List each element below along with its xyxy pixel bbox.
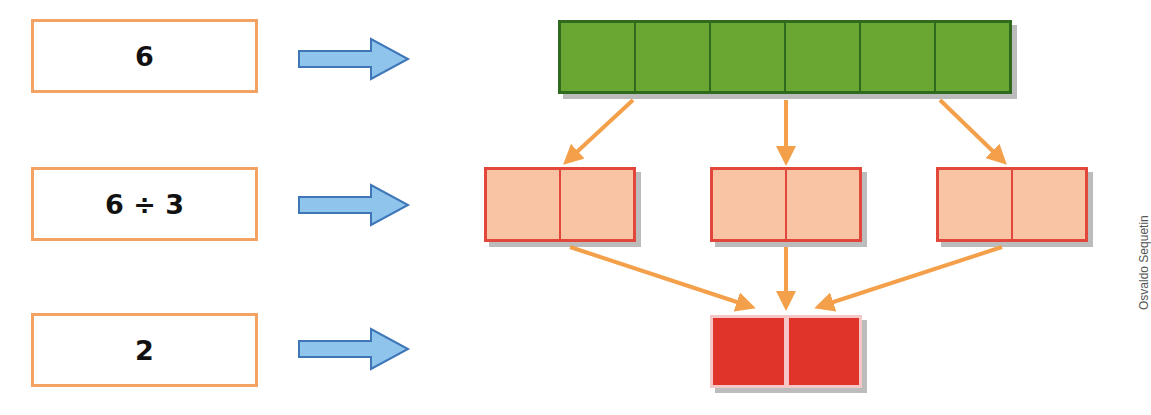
image-credit: Osvaldo Sequetin <box>1137 215 1151 310</box>
pink-unit <box>560 169 634 240</box>
green-unit <box>935 22 1010 92</box>
pink-group-3 <box>936 167 1088 242</box>
label-text: 2 <box>135 335 154 366</box>
pink-unit <box>1012 169 1086 240</box>
right-arrow-icon <box>297 37 411 81</box>
red-unit <box>712 317 785 386</box>
red-unit <box>788 317 861 386</box>
green-units-row <box>558 20 1012 94</box>
right-arrow-icon <box>297 183 411 227</box>
pink-group-1 <box>484 167 636 242</box>
pink-unit <box>938 169 1012 240</box>
green-unit <box>860 22 935 92</box>
right-arrow-icon <box>297 327 411 371</box>
green-unit <box>710 22 785 92</box>
green-unit <box>785 22 860 92</box>
pink-unit <box>786 169 860 240</box>
down-arrow-icon <box>566 100 633 162</box>
down-arrow-icon <box>818 247 1002 307</box>
down-arrow-icon <box>940 100 1004 162</box>
label-text: 6 <box>135 41 154 72</box>
label-text: 6 ÷ 3 <box>105 189 184 220</box>
pink-unit <box>486 169 560 240</box>
down-arrow-icon <box>570 247 752 307</box>
label-box-division: 6 ÷ 3 <box>31 167 258 241</box>
green-unit <box>635 22 710 92</box>
red-result-group <box>710 315 862 388</box>
label-box-six: 6 <box>31 19 258 93</box>
pink-unit <box>712 169 786 240</box>
green-unit <box>560 22 635 92</box>
label-box-two: 2 <box>31 313 258 387</box>
pink-group-2 <box>710 167 862 242</box>
